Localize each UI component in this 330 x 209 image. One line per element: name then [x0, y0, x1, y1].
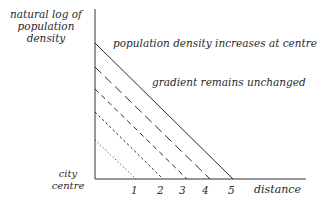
- origin-label-line-1: city: [50, 168, 86, 180]
- density-gradient-diagram: natural log of population density popula…: [0, 0, 330, 209]
- y-axis-label: natural log of population density: [2, 8, 90, 44]
- origin-label-line-2: centre: [50, 180, 86, 192]
- x-tick-3: 3: [179, 185, 186, 196]
- y-axis-label-line-3: density: [2, 32, 90, 44]
- gradient-line-dotted: [95, 140, 136, 179]
- annotation-gradient-unchanged: gradient remains unchanged: [152, 77, 306, 88]
- gradient-line-medium-dash: [95, 89, 187, 179]
- gradient-line-solid: [95, 43, 233, 179]
- y-axis-label-line-1: natural log of: [2, 8, 90, 20]
- annotation-density-increases: population density increases at centre: [113, 38, 317, 49]
- y-axis-label-line-2: population: [2, 20, 90, 32]
- origin-label: city centre: [50, 168, 86, 192]
- x-tick-5: 5: [228, 185, 235, 196]
- x-tick-4: 4: [202, 185, 209, 196]
- x-axis-label: distance: [254, 184, 301, 195]
- x-tick-2: 2: [157, 185, 164, 196]
- x-tick-1: 1: [131, 185, 138, 196]
